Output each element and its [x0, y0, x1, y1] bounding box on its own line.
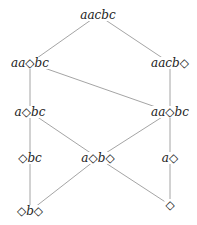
node-a-diamond-bc: a◇bc: [14, 106, 47, 118]
edge: [98, 158, 170, 205]
node-diamond-bc: ◇bc: [17, 152, 43, 164]
node-a-diamond: a◇: [161, 152, 179, 164]
lattice-diagram: aacbc aa◇bc aacb◇ a◇bc aa◇bc ◇bc a◇b◇ a◇…: [0, 0, 197, 225]
node-aacb-diamond: aacb◇: [150, 57, 190, 69]
node-a-diamond-b-diamond: a◇b◇: [80, 152, 115, 164]
node-diamond-b-diamond: ◇b◇: [16, 205, 44, 217]
edge: [30, 63, 170, 112]
node-aacbc: aacbc: [79, 9, 116, 21]
node-diamond: ◇: [164, 199, 175, 211]
node-aa-diamond-bc-left: aa◇bc: [10, 57, 50, 69]
node-aa-diamond-bc-right: aa◇bc: [150, 106, 190, 118]
